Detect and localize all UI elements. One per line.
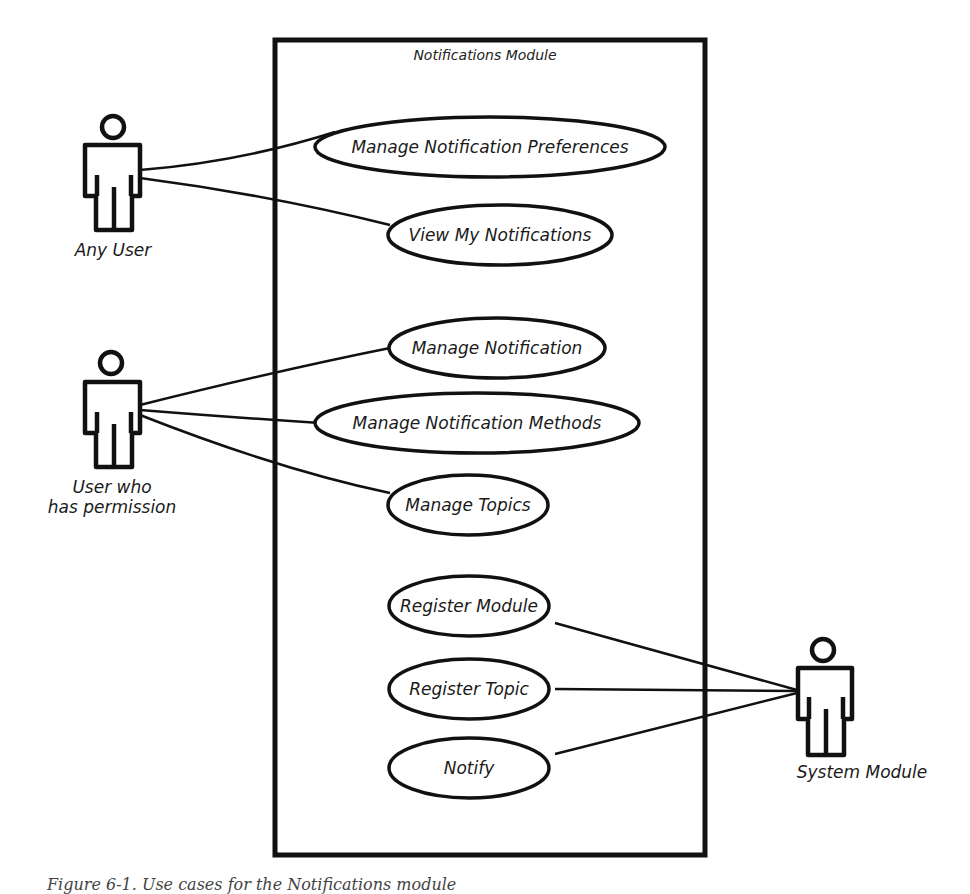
use-case-label: Notify: [444, 758, 495, 778]
system-boundary-title: Notifications Module: [413, 47, 556, 63]
actor-label-permitted-user-line2: has permission: [48, 497, 177, 517]
use-case-label: Manage Notification Preferences: [351, 137, 628, 157]
actor-label-permitted-user-line1: User who: [72, 477, 151, 497]
use-case-label: Manage Notification: [412, 338, 583, 358]
actor-permitted-user-icon: [85, 352, 140, 467]
figure-caption: Figure 6-1. Use cases for the Notificati…: [47, 875, 456, 894]
use-case-label: Manage Topics: [405, 495, 530, 515]
use-case-label: Register Module: [400, 596, 538, 616]
actor-system-module-icon: [798, 639, 852, 755]
use-case-label: Register Topic: [409, 679, 529, 699]
actor-label-any-user: Any User: [75, 240, 152, 260]
actor-any-user-icon: [85, 116, 140, 230]
use-case-label: Manage Notification Methods: [353, 413, 602, 433]
actor-label-system-module: System Module: [797, 762, 928, 782]
use-case-label: View My Notifications: [409, 225, 592, 245]
